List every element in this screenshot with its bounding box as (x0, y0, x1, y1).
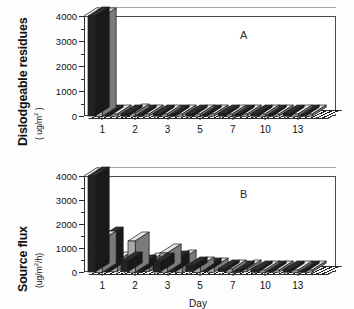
x-axis-tick-label: 13 (292, 124, 303, 135)
bar (153, 114, 160, 116)
y-axis-tick-label: 1000 (56, 243, 77, 254)
bar (251, 114, 258, 116)
y-axis-tick-label: 4000 (56, 171, 77, 182)
y-axis-tick-label: 1000 (56, 86, 77, 97)
bar (153, 262, 160, 272)
panel-b-units-text: (ug/m (34, 266, 44, 288)
panel-b-units-close: /h) (34, 253, 44, 263)
panel-b-y-axis-title: Source flux (16, 226, 30, 292)
y-axis-tick-label: 2000 (56, 61, 77, 72)
panel-a-y-axis-title: Dislodgeable residues (16, 18, 30, 147)
x-axis-tick-label: 13 (292, 280, 303, 291)
y-axis-tick-label: 2000 (56, 219, 77, 230)
panel-a-y-axis-line (84, 16, 85, 116)
y-axis-tick-major (79, 16, 84, 17)
y-axis-tick-minor (81, 188, 84, 189)
panel-a: Dislodgeable residues ( ug/m2 ) A 010002… (0, 0, 354, 152)
y-axis-tick-major (79, 224, 84, 225)
y-axis-tick-label: 0 (72, 267, 77, 278)
x-axis-title: Day (189, 298, 207, 309)
bar (283, 270, 290, 272)
panel-a-units-close: ) (34, 107, 44, 112)
bar (121, 261, 128, 272)
y-axis-tick-label: 3000 (56, 36, 77, 47)
panel-a-letter: A (240, 29, 247, 41)
panel-b-units-exponent: 2 (33, 263, 39, 266)
y-axis-tick-label: 3000 (56, 195, 77, 206)
panel-b-3d-lid (84, 167, 336, 176)
x-axis-tick (232, 272, 233, 276)
y-axis-tick-label: 0 (72, 111, 77, 122)
x-axis-tick (232, 116, 233, 120)
y-axis-tick-minor (81, 54, 84, 55)
y-axis-tick-major (79, 248, 84, 249)
panel-b: Source flux (ug/m2/h) B 0100020003000400… (0, 152, 354, 308)
x-axis-tick-label: 1 (100, 124, 106, 135)
x-axis-tick-label: 1 (100, 280, 106, 291)
panel-b-y-axis-line (84, 176, 85, 272)
bar (121, 114, 128, 116)
y-axis-tick-label: 4000 (56, 11, 77, 22)
bar (283, 114, 290, 116)
x-axis-tick-label: 3 (165, 124, 171, 135)
y-axis-tick-major (79, 41, 84, 42)
x-axis-tick-label: 7 (230, 124, 236, 135)
bar (186, 114, 193, 116)
panel-b-letter: B (240, 188, 247, 200)
bar (88, 176, 95, 272)
y-axis-tick-major (79, 66, 84, 67)
y-axis-tick-minor (81, 79, 84, 80)
x-axis-tick-label: 5 (197, 124, 203, 135)
panel-a-frame (84, 16, 336, 116)
bar (251, 270, 258, 272)
panel-a-y-axis-units: ( ug/m2 ) (33, 107, 44, 140)
bar (218, 114, 225, 116)
bar (186, 266, 193, 272)
panel-b-plot-area: B 01000200030004000123571013 (84, 176, 336, 272)
x-axis-tick-label: 2 (132, 124, 138, 135)
x-axis-tick-label: 10 (260, 124, 271, 135)
panel-a-units-exponent: 2 (33, 113, 39, 116)
y-axis-tick-major (79, 91, 84, 92)
panel-a-units-text: ( ug/m (34, 116, 44, 140)
x-axis-tick-label: 3 (165, 280, 171, 291)
x-axis-tick-label: 10 (260, 280, 271, 291)
x-axis-tick-label: 2 (132, 280, 138, 291)
y-axis-tick-minor (81, 212, 84, 213)
y-axis-tick-major (79, 176, 84, 177)
y-axis-tick-major (79, 116, 84, 117)
panel-a-plot-area: A 01000200030004000123571013 (84, 16, 336, 116)
y-axis-tick-minor (81, 29, 84, 30)
y-axis-tick-minor (81, 236, 84, 237)
x-axis-tick-label: 5 (197, 280, 203, 291)
y-axis-tick-major (79, 200, 84, 201)
x-axis-tick-label: 7 (230, 280, 236, 291)
bar (218, 269, 225, 272)
y-axis-tick-major (79, 272, 84, 273)
panel-b-y-axis-units: (ug/m2/h) (33, 253, 44, 288)
y-axis-tick-minor (81, 260, 84, 261)
panel-a-3d-lid (84, 7, 336, 16)
y-axis-tick-minor (81, 104, 84, 105)
bar (88, 16, 95, 116)
